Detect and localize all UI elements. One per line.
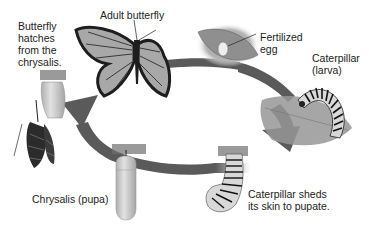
cycle-arrowhead-left [62,95,98,128]
hatching-butterfly-icon [14,70,66,168]
label-caterpillar-larva: Caterpillar (larva) [312,52,360,76]
label-fertilized-egg: Fertilized egg [260,31,303,55]
shedding-caterpillar-icon [206,146,248,212]
label-adult-butterfly: Adult butterfly [100,9,164,21]
label-chrysalis-pupa: Chrysalis (pupa) [32,193,108,205]
adult-butterfly-icon [76,20,170,96]
label-butterfly-hatches: Butterfly hatches from the chrysalis. [18,20,62,68]
label-caterpillar-sheds: Caterpillar sheds its skin to pupate. [248,188,330,212]
egg-icon [218,42,228,56]
